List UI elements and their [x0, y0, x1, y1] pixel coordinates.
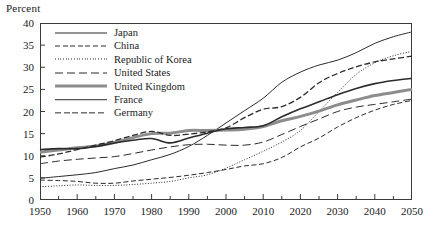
x-tick-label: 2030 [327, 205, 349, 217]
x-tick-label: 1970 [103, 205, 125, 217]
legend-swatch [55, 40, 107, 52]
y-tick-label: 40 [23, 17, 34, 29]
legend-label: Japan [114, 26, 138, 39]
y-tick-label: 30 [23, 61, 34, 73]
y-tick-label: 20 [23, 106, 34, 118]
legend-item: China [55, 39, 192, 52]
legend-item: Japan [55, 26, 192, 39]
y-tick-label: 35 [23, 39, 34, 51]
legend-swatch [55, 80, 107, 92]
legend-item: United Kingdom [55, 80, 192, 93]
y-tick-label: 10 [23, 150, 34, 162]
y-tick-label: 15 [23, 128, 34, 140]
legend-label: Germany [114, 106, 153, 119]
legend-swatch [55, 27, 107, 39]
legend-label: Republic of Korea [114, 53, 192, 66]
chart-legend: JapanChinaRepublic of KoreaUnited States… [55, 26, 192, 120]
legend-swatch [55, 53, 107, 65]
legend-label: China [114, 39, 139, 52]
legend-item: France [55, 93, 192, 106]
x-tick-label: 2000 [215, 205, 237, 217]
y-tick-label: 5 [29, 172, 35, 184]
x-tick-label: 1960 [66, 205, 88, 217]
legend-swatch [55, 67, 107, 79]
x-tick-label: 1980 [141, 205, 163, 217]
y-tick-label: 25 [23, 83, 34, 95]
legend-label: France [114, 93, 143, 106]
legend-swatch [55, 107, 107, 119]
legend-label: United States [114, 66, 170, 79]
legend-item: Germany [55, 106, 192, 119]
legend-item: United States [55, 66, 192, 79]
x-tick-label: 2020 [289, 205, 311, 217]
x-tick-label: 2050 [401, 205, 423, 217]
x-tick-label: 2010 [252, 205, 274, 217]
legend-swatch [55, 94, 107, 106]
legend-label: United Kingdom [114, 80, 185, 93]
legend-item: Republic of Korea [55, 53, 192, 66]
y-axis-title: Percent [6, 2, 40, 14]
x-tick-label: 1990 [178, 205, 200, 217]
x-tick-label: 2040 [364, 205, 386, 217]
x-tick-label: 1950 [29, 205, 51, 217]
